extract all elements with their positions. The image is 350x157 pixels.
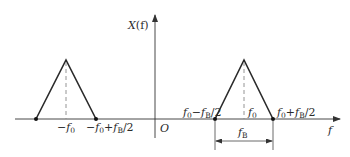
left-band-left-edge-dot	[34, 117, 38, 121]
right-band-center-label: f0	[247, 106, 257, 120]
right-band-right-edge-label: f0+fB/2	[276, 106, 315, 120]
y-axis-label: X(f)	[127, 19, 149, 32]
left-band-triangle	[36, 60, 96, 119]
left-band-center-label: −f0	[57, 121, 75, 135]
right-band-right-edge-dot	[271, 117, 275, 121]
x-axis-label: f	[327, 124, 334, 137]
y-axis-label-rest: (f)	[136, 19, 149, 32]
right-band-left-edge-label: f0−fB/2	[182, 106, 221, 120]
right-band-triangle	[215, 60, 273, 119]
bandwidth-label: fB	[237, 126, 248, 140]
spectrum-diagram: X(f) f O −f0 −f0+fB/2 f0−fB/2 f0 f0+fB/2…	[0, 0, 350, 157]
left-band-right-edge-label: −f0+fB/2	[86, 121, 134, 135]
origin-label: O	[160, 122, 169, 135]
